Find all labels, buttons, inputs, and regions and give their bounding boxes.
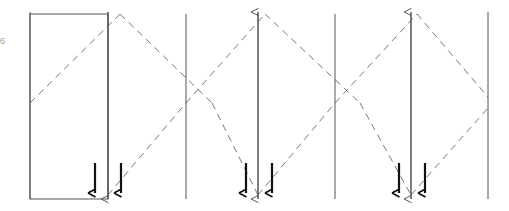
diagram-canvas: 6 xyxy=(0,0,509,211)
diagram-svg xyxy=(0,0,509,211)
left-block xyxy=(30,14,108,199)
seg-down-2b xyxy=(360,103,411,195)
edge-label-text: 6 xyxy=(0,36,8,46)
tick-marker-layer xyxy=(95,163,425,193)
seg-down-2 xyxy=(265,14,360,103)
seg-up-1 xyxy=(30,14,120,103)
left-block-rectangle xyxy=(30,14,108,199)
seg-up-3 xyxy=(258,103,335,195)
seg-up-2 xyxy=(108,103,186,195)
seg-down-1b xyxy=(212,103,258,195)
vertical-plane-layer xyxy=(30,12,488,199)
seg-up-4 xyxy=(411,108,488,195)
seg-up-2b xyxy=(186,14,265,103)
seg-down-3 xyxy=(417,14,488,97)
seg-up-3b xyxy=(335,14,417,103)
dashed-ray-layer xyxy=(30,14,488,195)
